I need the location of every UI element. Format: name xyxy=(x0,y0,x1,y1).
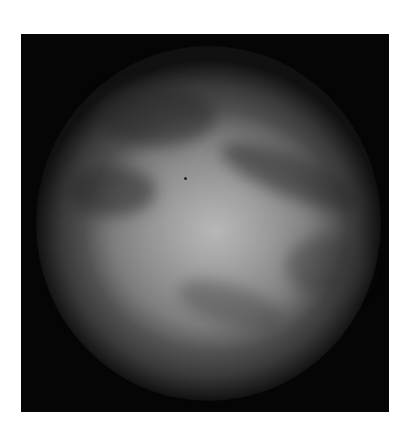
image-frame xyxy=(21,34,389,412)
dark-band xyxy=(214,129,368,222)
planet-disc xyxy=(36,46,381,401)
dark-spot xyxy=(184,177,187,180)
dark-band xyxy=(173,270,290,342)
dark-band xyxy=(286,236,366,296)
dark-band xyxy=(66,166,156,216)
dark-band xyxy=(96,86,216,146)
